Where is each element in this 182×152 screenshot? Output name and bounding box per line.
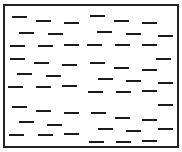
particle-dash <box>126 33 141 35</box>
particle-dash <box>12 106 27 108</box>
particle-dash <box>64 133 79 135</box>
particle-dash <box>126 80 141 82</box>
particle-dash <box>142 90 157 92</box>
particle-dash <box>19 121 34 123</box>
particle-dash <box>19 32 34 34</box>
particle-dash <box>158 35 173 37</box>
particle-dash <box>36 110 51 112</box>
particle-dash <box>47 124 62 126</box>
particle-dash <box>97 31 112 33</box>
particle-dash <box>142 69 157 71</box>
particle-dash <box>116 91 131 93</box>
particle-dash <box>115 44 130 46</box>
particle-dash <box>9 134 24 136</box>
particle-dash <box>91 112 106 114</box>
particle-dash <box>38 134 53 136</box>
particle-dash <box>89 141 104 143</box>
particle-dash <box>38 45 53 47</box>
particle-dash <box>142 44 157 46</box>
particle-dash <box>64 44 79 46</box>
particle-dash <box>115 117 130 119</box>
particle-dash <box>158 128 173 130</box>
particle-dash <box>64 22 79 24</box>
particle-dash <box>36 20 51 22</box>
particle-dash <box>156 58 171 60</box>
particle-dash <box>10 58 25 60</box>
particle-dash <box>62 85 77 87</box>
particle-dash <box>116 141 131 143</box>
particle-dash <box>88 91 103 93</box>
container-box <box>3 4 179 148</box>
particle-dash <box>12 16 27 18</box>
particle-dash <box>158 82 173 84</box>
particle-dash <box>62 64 77 66</box>
particle-dash <box>87 44 102 46</box>
particle-dash <box>36 86 51 88</box>
particle-dash <box>90 15 105 17</box>
particle-dash <box>48 33 63 35</box>
particle-dash <box>34 62 49 64</box>
particle-dash <box>90 62 105 64</box>
particle-dash <box>158 104 173 106</box>
particle-dash <box>17 73 32 75</box>
particle-dash <box>142 119 157 121</box>
particle-dash <box>126 130 141 132</box>
particle-dash <box>98 78 113 80</box>
particle-dash <box>98 128 113 130</box>
particle-dash <box>142 140 157 142</box>
particle-dash <box>114 20 129 22</box>
particle-dash <box>142 22 157 24</box>
particle-dash <box>8 86 23 88</box>
particle-dash <box>114 67 129 69</box>
particle-dash <box>10 45 25 47</box>
particle-dash <box>46 75 61 77</box>
particle-dash <box>64 112 79 114</box>
